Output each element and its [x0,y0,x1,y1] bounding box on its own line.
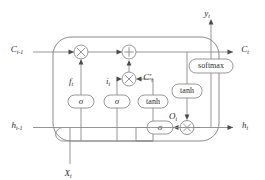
tanh-box-cell-label: tanh [180,86,194,95]
lstm-cell-diagram: σ σ tanh σ tanh [0,0,265,180]
label-hidden-in: ht-1 [11,120,22,131]
label-input-gate-sub: t [108,81,110,87]
arrowhead-forget-to-multiply [79,59,84,65]
label-hidden-out-sub: t [246,125,248,131]
label-output-gate: Ot [169,111,178,122]
lstm-diagram-canvas: σ σ tanh σ tanh [0,0,265,180]
label-cell-state-in-sub: t-1 [17,49,24,55]
label-output-y: yt [203,8,210,19]
arrowhead-hidden-out [228,125,234,130]
arrowhead-tanh-to-multiply-output [185,115,190,121]
label-cell-state-in: Ct-1 [11,44,24,55]
tanh-box-candidate-label: tanh [146,97,160,106]
arrowhead-output-y [209,19,214,25]
label-output-gate-sub: t [175,116,177,122]
arrowhead-forget-to-add [117,50,123,55]
arrowhead-input-mult-to-add [127,60,132,66]
label-forget-gate: ft [69,76,74,87]
label-input-x-sub: t [70,173,72,179]
sigma-box-input-label: σ [115,96,120,106]
label-input-gate: it [106,76,111,87]
arrowhead-cell-state-out [228,50,234,55]
arrowhead-cell-state-in [69,50,75,55]
label-hidden-in-sub: t-1 [16,125,23,131]
arrowhead-input-to-multiply [117,77,123,82]
label-candidate: C′t [143,72,153,83]
sigma-box-forget-label: σ [79,96,84,106]
label-input-x: Xt [63,168,72,179]
arrowhead-candidate-to-multiply [136,77,142,82]
label-cell-state-out: Ct [241,44,249,55]
label-output-y-sub: t [208,13,210,19]
softmax-box-label: softmax [198,61,224,70]
label-hidden-out: ht [242,120,249,131]
label-cell-state-out-sub: t [247,49,249,55]
label-forget-gate-sub: t [71,81,73,87]
